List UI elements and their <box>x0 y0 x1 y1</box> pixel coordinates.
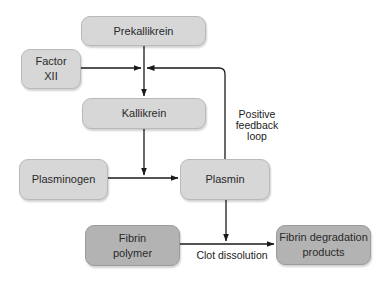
node-fibrin-degradation-products: Fibrin degradation products <box>276 225 371 265</box>
node-fibrin-polymer-label-line1: Fibrin <box>119 231 147 246</box>
node-prekallikrein-label: Prekallikrein <box>114 24 174 39</box>
node-fibrin-degradation-label-line2: products <box>302 245 344 260</box>
feedback-loop-label: Positive feedback loop <box>232 109 282 142</box>
node-factor-xii-label-line2: XII <box>44 69 57 84</box>
node-kallikrein: Kallikrein <box>82 98 206 129</box>
node-plasmin-label: Plasmin <box>205 172 244 187</box>
node-fibrin-polymer: Fibrin polymer <box>85 225 180 266</box>
node-plasminogen: Plasminogen <box>19 159 108 200</box>
node-fibrin-degradation-label-line1: Fibrin degradation <box>279 230 368 245</box>
feedback-label-line3: loop <box>232 131 282 142</box>
node-prekallikrein: Prekallikrein <box>81 16 206 46</box>
node-kallikrein-label: Kallikrein <box>122 106 167 121</box>
node-factor-xii-label-line1: Factor <box>35 54 66 69</box>
node-fibrin-polymer-label-line2: polymer <box>113 246 152 261</box>
node-plasminogen-label: Plasminogen <box>32 172 96 187</box>
clot-dissolution-label: Clot dissolution <box>192 250 272 261</box>
node-plasmin: Plasmin <box>180 159 270 200</box>
node-factor-xii: Factor XII <box>21 49 81 89</box>
